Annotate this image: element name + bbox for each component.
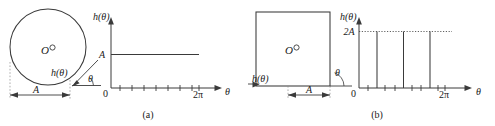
- plot-b-origin-label: 0: [351, 88, 356, 99]
- plot-a-xaxis-arrow-icon: [215, 85, 223, 91]
- plot-b-xaxis-arrow-icon: [465, 85, 473, 91]
- panel-b-center-label: O: [285, 44, 293, 56]
- dim-arrow-right-icon: [62, 92, 70, 98]
- plot-b-yaxis-arrow-icon: [356, 17, 362, 25]
- plot-b-ylabel: h(θ): [340, 11, 357, 23]
- panel-a-diagram: O θ h(θ) A: [9, 9, 101, 99]
- panel-a-angle-label: θ: [88, 73, 93, 84]
- plot-a-origin-label: 0: [103, 88, 108, 99]
- caption-b: (b): [371, 109, 383, 121]
- plot-b-spikes: [377, 32, 430, 89]
- plot-b-xtick-end-label: 2π: [439, 89, 449, 100]
- center-dot-b-icon: [294, 45, 299, 50]
- panel-b-diagram: O θ h(θ) A: [248, 12, 352, 99]
- panel-a-width-label: A: [32, 84, 40, 95]
- panel-a-contact-label: h(θ): [51, 67, 68, 79]
- center-dot-icon: [50, 45, 55, 50]
- plot-b-ytick-label: 2A: [343, 26, 355, 37]
- plot-b-xlabel: θ: [476, 86, 481, 97]
- figure-svg: O θ h(θ) A h(θ) θ 0 A 2π: [0, 0, 495, 126]
- dim-arrow-left-b-icon: [288, 92, 296, 98]
- panel-b-plot: h(θ) θ 0 2A 2π: [340, 11, 481, 100]
- plot-a-xtick-end-label: 2π: [193, 89, 203, 100]
- dim-arrow-right-b-icon: [322, 92, 330, 98]
- panel-b-width-label: A: [305, 84, 313, 95]
- panel-a-center-label: O: [41, 44, 49, 56]
- plot-a-ytick-label: A: [98, 49, 106, 60]
- figure-container: O θ h(θ) A h(θ) θ 0 A 2π: [0, 0, 495, 126]
- panel-b-angle-label: θ: [335, 67, 340, 78]
- panel-b-contact-label: h(θ): [252, 73, 269, 85]
- panel-a-plot: h(θ) θ 0 A 2π: [93, 11, 230, 100]
- plot-a-ylabel: h(θ): [93, 11, 110, 23]
- plot-a-xlabel: θ: [225, 86, 230, 97]
- caption-a: (a): [142, 109, 153, 121]
- dim-arrow-left-icon: [10, 92, 18, 98]
